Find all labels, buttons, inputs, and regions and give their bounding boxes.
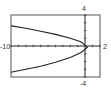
y-min-label: -4 bbox=[80, 80, 86, 87]
y-max-label: 4 bbox=[82, 5, 86, 12]
x-max-label: 2 bbox=[103, 43, 107, 50]
x-min-label: -10 bbox=[0, 43, 10, 50]
parabola-curve bbox=[11, 26, 87, 72]
graph-canvas: -10 2 4 -4 bbox=[0, 0, 111, 89]
